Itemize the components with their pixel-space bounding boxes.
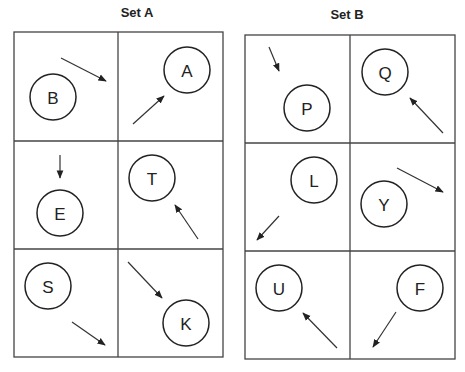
cell-k: K: [128, 262, 209, 346]
cell-a: A: [133, 47, 210, 124]
cell-y: Y: [361, 168, 443, 227]
arrow-icon: [61, 58, 106, 81]
cell-t: T: [129, 155, 198, 239]
cell-p: P: [269, 47, 330, 131]
cell-e: E: [37, 155, 83, 236]
arrow-icon: [303, 313, 337, 348]
arrow-icon: [257, 216, 279, 240]
arrow-icon: [397, 168, 443, 192]
circle-letter: Q: [378, 64, 391, 83]
arrow-icon: [72, 322, 105, 345]
arrow-icon: [128, 262, 162, 298]
cell-q: Q: [362, 49, 443, 133]
circle-letter: L: [309, 172, 318, 191]
cell-u: U: [256, 265, 337, 348]
arrow-icon: [133, 96, 164, 124]
diagram-canvas: BAETSKPQLYUF: [0, 0, 465, 372]
circle-letter: A: [181, 62, 193, 81]
circle-letter: P: [301, 100, 312, 119]
circle-letter: E: [54, 205, 65, 224]
arrow-icon: [373, 312, 396, 347]
circle-letter: K: [180, 315, 192, 334]
arrow-icon: [175, 205, 198, 239]
circle-letter: B: [47, 89, 58, 108]
arrow-icon: [410, 98, 443, 133]
arrow-icon: [269, 47, 279, 71]
cell-f: F: [373, 265, 443, 347]
cell-b: B: [30, 58, 106, 120]
circle-letter: U: [273, 280, 285, 299]
cell-s: S: [25, 263, 105, 345]
circle-letter: F: [415, 280, 425, 299]
circle-letter: T: [147, 170, 157, 189]
cell-l: L: [257, 157, 337, 240]
circle-letter: S: [42, 278, 53, 297]
circle-letter: Y: [378, 196, 389, 215]
